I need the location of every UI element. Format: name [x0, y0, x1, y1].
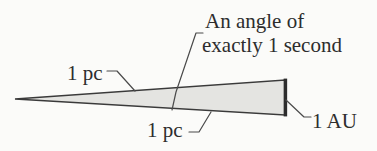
pc-top-leader-line — [107, 71, 135, 91]
parsec-diagram: An angle of exactly 1 second 1 pc 1 pc 1… — [0, 0, 377, 151]
au-leader-line — [286, 100, 311, 117]
angle-label-line1: An angle of — [205, 9, 304, 33]
parsec-definition-figure: An angle of exactly 1 second 1 pc 1 pc 1… — [0, 0, 377, 151]
pc-label-top: 1 pc — [67, 61, 103, 85]
au-label: 1 AU — [312, 109, 357, 133]
angle-label-line2: exactly 1 second — [202, 33, 342, 57]
pc-label-bottom: 1 pc — [147, 118, 183, 142]
pc-bottom-leader-line — [189, 112, 211, 132]
parsec-triangle-shape — [15, 80, 285, 115]
